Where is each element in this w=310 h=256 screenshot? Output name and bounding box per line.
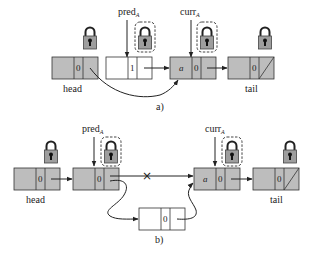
svg-text:a: a	[179, 63, 184, 73]
node-tail-b: 0	[253, 168, 299, 190]
edge-cross-mark-b: ×	[142, 169, 152, 183]
svg-text:0: 0	[218, 174, 223, 184]
svg-text:0: 0	[252, 63, 257, 73]
pred-pointer-label-a: predA	[118, 6, 140, 18]
lock-highlight-curr-a	[197, 22, 217, 52]
pred-pointer-label-b: predA	[82, 123, 104, 135]
lock-icon-tail-b	[284, 142, 297, 164]
svg-text:0: 0	[97, 174, 102, 184]
head-label-a: head	[63, 83, 82, 94]
node-head-a: 0	[52, 57, 98, 79]
caption-b: b)	[155, 234, 163, 246]
node-pred-b: 0	[73, 168, 119, 190]
diagram-canvas: predA currA 0 head 1	[0, 0, 310, 256]
lock-icon-tail-a	[259, 28, 272, 50]
panel-b: predA currA 0 head 0	[14, 123, 299, 246]
lock-icon-pred-a	[139, 28, 152, 50]
caption-a: a)	[156, 101, 164, 113]
svg-text:1: 1	[130, 63, 135, 73]
head-label-b: head	[26, 194, 45, 205]
tail-label-a: tail	[245, 83, 258, 94]
lock-highlight-pred-a	[135, 22, 155, 52]
lock-highlight-pred-b	[101, 137, 121, 166]
panel-a: predA currA 0 head 1	[52, 6, 274, 113]
svg-text:0: 0	[163, 214, 168, 224]
lock-icon-curr-b	[226, 142, 239, 164]
node-tail-a: 0	[228, 57, 274, 79]
svg-text:0: 0	[38, 174, 43, 184]
svg-text:a: a	[203, 174, 208, 184]
curr-pointer-label-b: currA	[205, 123, 225, 135]
svg-text:0: 0	[76, 63, 81, 73]
lock-icon-head-a	[84, 28, 97, 50]
lock-icon-curr-a	[201, 28, 214, 50]
svg-text:0: 0	[194, 63, 199, 73]
svg-text:0: 0	[277, 174, 282, 184]
lock-icon-pred-b	[105, 142, 118, 164]
tail-label-b: tail	[270, 194, 283, 205]
lock-highlight-curr-b	[222, 137, 242, 166]
curr-pointer-label-a: currA	[180, 6, 200, 18]
lock-icon-head-b	[45, 142, 58, 164]
